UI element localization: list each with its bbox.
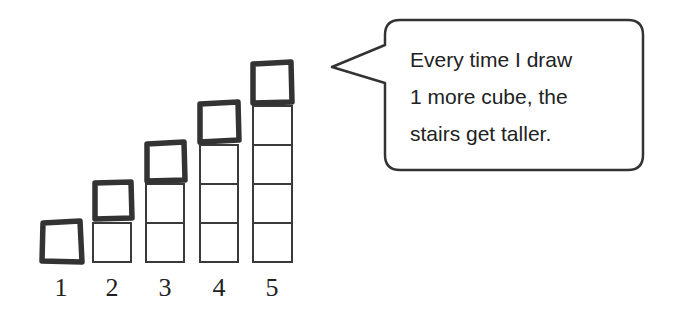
column-5: 5 <box>253 62 292 302</box>
drawn-cube <box>42 221 82 262</box>
staircase-diagram: 1 2 3 4 5 Every time I draw 1 more cube,… <box>0 0 675 319</box>
column-label: 2 <box>106 273 119 302</box>
column-label: 5 <box>266 273 279 302</box>
plain-cube <box>200 184 238 223</box>
speech-bubble: Every time I draw 1 more cube, the stair… <box>332 20 643 170</box>
drawn-cube <box>147 142 185 181</box>
drawn-cube <box>200 102 239 142</box>
column-3: 3 <box>146 142 185 302</box>
speech-line-2: 1 more cube, the <box>410 85 568 108</box>
speech-line-3: stairs get taller. <box>410 122 551 145</box>
column-2: 2 <box>93 182 132 302</box>
drawn-cube <box>95 182 132 219</box>
plain-cube <box>146 184 184 223</box>
plain-cube <box>253 184 292 223</box>
plain-cube <box>253 106 292 145</box>
column-label: 1 <box>55 273 68 302</box>
speech-line-1: Every time I draw <box>410 48 573 71</box>
column-label: 3 <box>159 273 172 302</box>
plain-cube <box>93 223 131 262</box>
plain-cube <box>200 223 238 262</box>
plain-cube <box>253 145 292 184</box>
column-4: 4 <box>200 102 239 302</box>
plain-cube <box>253 223 292 262</box>
column-1: 1 <box>42 221 82 302</box>
column-label: 4 <box>213 273 226 302</box>
plain-cube <box>146 223 184 262</box>
drawn-cube <box>253 62 292 103</box>
plain-cube <box>200 145 238 184</box>
